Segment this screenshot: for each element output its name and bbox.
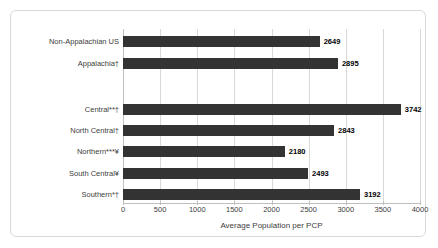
- bar-value-label: 2649: [324, 36, 341, 47]
- chart-frame: 2649289537422843218024933192 Non-Appalac…: [10, 10, 426, 237]
- bar-value-label: 2843: [338, 125, 355, 136]
- bar-value-label: 3742: [405, 104, 422, 115]
- tick-label-2000: 2000: [263, 205, 280, 214]
- bar[interactable]: [123, 189, 360, 200]
- x-axis-tick-labels: 05001000150020002500300035004000: [123, 205, 420, 219]
- tick-label-500: 500: [154, 205, 167, 214]
- bar-value-label: 3192: [364, 189, 381, 200]
- tick-label-1000: 1000: [189, 205, 206, 214]
- category-label: Appalachia†: [78, 58, 119, 69]
- category-label: Non-Appalachian US: [49, 36, 119, 47]
- chart-figure: 2649289537422843218024933192 Non-Appalac…: [0, 0, 438, 248]
- gridline-2500: [309, 29, 310, 203]
- tick-label-3500: 3500: [375, 205, 392, 214]
- category-label: Northern***¥: [77, 146, 119, 157]
- gridline-3000: [346, 29, 347, 203]
- plot-area: 2649289537422843218024933192: [123, 29, 420, 203]
- category-label: North Central†: [70, 125, 119, 136]
- category-label: South Central¥: [69, 168, 119, 179]
- x-axis-title: Average Population per PCP: [123, 221, 420, 230]
- category-axis-labels: Non-Appalachian USAppalachia†Central**†N…: [25, 29, 119, 203]
- category-label: Central**†: [85, 104, 119, 115]
- tick-label-2500: 2500: [300, 205, 317, 214]
- tick-label-4000: 4000: [412, 205, 429, 214]
- gridline-4000: [420, 29, 421, 203]
- bar[interactable]: [123, 104, 401, 115]
- category-label: Southern*†: [81, 189, 119, 200]
- bar[interactable]: [123, 36, 320, 47]
- bar-value-label: 2895: [342, 58, 359, 69]
- bar[interactable]: [123, 125, 334, 136]
- bar-value-label: 2180: [289, 146, 306, 157]
- bar[interactable]: [123, 146, 285, 157]
- bar[interactable]: [123, 168, 308, 179]
- tick-label-0: 0: [121, 205, 125, 214]
- tick-label-1500: 1500: [226, 205, 243, 214]
- tick-label-3000: 3000: [337, 205, 354, 214]
- gridline-3500: [383, 29, 384, 203]
- bar-value-label: 2493: [312, 168, 329, 179]
- bar[interactable]: [123, 58, 338, 69]
